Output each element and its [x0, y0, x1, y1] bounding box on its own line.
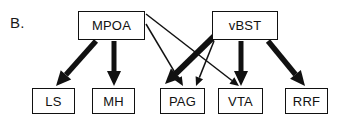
node-vta[interactable]: VTA	[218, 88, 263, 114]
node-pag[interactable]: PAG	[160, 88, 205, 114]
node-mh[interactable]: MH	[92, 88, 135, 114]
edge-vbst-vta	[234, 41, 248, 86]
node-pag-label: PAG	[169, 95, 196, 108]
node-mh-label: MH	[103, 95, 124, 108]
node-vbst-label: vBST	[229, 19, 262, 32]
edge-shaft	[268, 41, 295, 74]
node-rrf[interactable]: RRF	[285, 88, 328, 114]
edge-mpoa-mh	[107, 41, 121, 86]
node-rrf-label: RRF	[293, 95, 320, 108]
diagram-figure: B. MPOA vBST LS MH PAG VTA RRF	[0, 0, 337, 122]
edge-shaft	[66, 41, 96, 75]
edge-mpoa-ls	[56, 41, 96, 86]
node-mpoa-label: MPOA	[92, 19, 131, 32]
edge-arrowhead	[107, 71, 121, 86]
edge-vbst-rrf	[268, 41, 305, 86]
node-vta-label: VTA	[228, 95, 253, 108]
node-ls[interactable]: LS	[32, 88, 75, 114]
edge-shaft	[146, 24, 178, 78]
node-ls-label: LS	[45, 95, 61, 108]
node-vbst[interactable]: vBST	[212, 11, 278, 40]
node-mpoa[interactable]: MPOA	[78, 11, 145, 40]
